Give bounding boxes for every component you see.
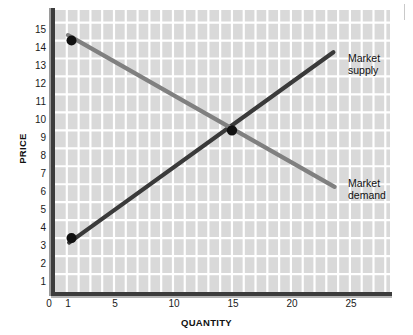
- supply-demand-chart: 15 14 13 12 11 10 9 8 7 6 5 4 3 2 1 0 1 …: [0, 0, 413, 335]
- page-edge-artifact: [404, 4, 405, 20]
- series-label-market-demand: Market demand: [348, 178, 386, 201]
- y-tick-15: 15: [20, 25, 46, 35]
- x-tick-20: 20: [277, 299, 307, 309]
- series-layer: [0, 0, 413, 335]
- y-tick-1: 1: [20, 277, 46, 287]
- y-tick-6: 6: [20, 187, 46, 197]
- y-axis-title: PRICE: [17, 119, 28, 179]
- y-tick-4: 4: [20, 223, 46, 233]
- y-tick-3: 3: [20, 241, 46, 251]
- x-tick-1: 1: [53, 299, 83, 309]
- x-tick-15: 15: [218, 299, 248, 309]
- y-tick-11: 11: [20, 97, 46, 107]
- x-tick-5: 5: [100, 299, 130, 309]
- y-tick-12: 12: [20, 79, 46, 89]
- x-tick-25: 25: [336, 299, 366, 309]
- y-tick-14: 14: [20, 43, 46, 53]
- x-tick-10: 10: [159, 299, 189, 309]
- series-label-market-supply: Market supply: [348, 53, 380, 76]
- x-axis-title: QUANTITY: [0, 317, 413, 328]
- y-tick-13: 13: [20, 61, 46, 71]
- y-tick-5: 5: [20, 205, 46, 215]
- y-tick-2: 2: [20, 259, 46, 269]
